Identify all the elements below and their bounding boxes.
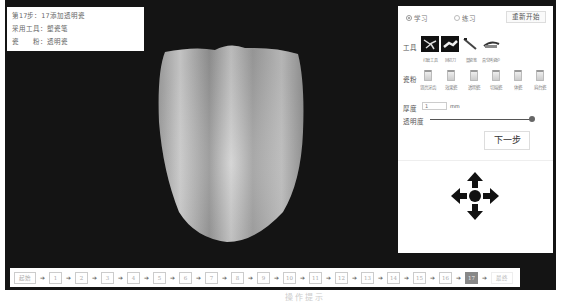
arrow-right-icon: ➔ — [140, 274, 153, 281]
radio-practice[interactable] — [454, 15, 460, 21]
porcelain-item[interactable]: 透明瓷 — [463, 70, 485, 90]
step-3[interactable]: 3 — [101, 272, 114, 284]
arrow-right-icon[interactable] — [483, 188, 499, 204]
tool-cutback[interactable]: 回切刀 — [440, 36, 460, 63]
porcelain-item[interactable]: 效果瓷 — [440, 70, 462, 90]
step-2[interactable]: 2 — [75, 272, 88, 284]
arrow-right-icon: ➔ — [426, 274, 439, 281]
control-panel: 学习 练习 重新开始 工具 打磨工具 回切刀 塑瓷笔 真空烤瓷炉 瓷粉 竖亮牙齿… — [398, 6, 553, 253]
opacity-slider-thumb[interactable] — [529, 116, 535, 122]
arrow-right-icon: ➔ — [452, 274, 465, 281]
step-12[interactable]: 12 — [335, 272, 348, 284]
step-10[interactable]: 10 — [283, 272, 296, 284]
cutback-knife-icon — [441, 36, 459, 52]
tool-info: 采用工具：塑瓷笔 — [12, 23, 139, 36]
arrow-right-icon: ➔ — [244, 274, 257, 281]
step-1[interactable]: 1 — [49, 272, 62, 284]
divider — [398, 160, 553, 161]
porcelain-brush-icon — [462, 36, 480, 52]
arrow-right-icon: ➔ — [192, 274, 205, 281]
arrow-right-icon: ➔ — [166, 274, 179, 281]
step-final[interactable]: 最终 — [491, 272, 513, 284]
restart-button[interactable]: 重新开始 — [506, 11, 546, 23]
arrow-right-icon: ➔ — [88, 274, 101, 281]
arrow-right-icon: ➔ — [270, 274, 283, 281]
porcelain-jar-icon — [447, 70, 455, 81]
arrow-down-icon[interactable] — [467, 204, 483, 220]
porcelain-label: 瓷粉 — [403, 74, 417, 84]
porcelain-item[interactable]: 肩台瓷 — [529, 70, 551, 90]
tool-porcelain-brush[interactable]: 塑瓷笔 — [461, 36, 481, 63]
arrow-right-icon: ➔ — [478, 274, 491, 281]
material-info: 瓷 粉：透明瓷 — [12, 36, 139, 49]
arrow-right-icon: ➔ — [348, 274, 361, 281]
tool-grinding[interactable]: 打磨工具 — [420, 36, 440, 63]
vacuum-furnace-icon — [482, 36, 500, 52]
tool-porcelain-brush-label: 塑瓷笔 — [462, 57, 480, 62]
tools-label: 工具 — [403, 42, 417, 52]
porcelain-item[interactable]: 体瓷 — [507, 70, 529, 90]
center-icon[interactable] — [469, 190, 481, 202]
grinding-tool-icon — [421, 36, 439, 52]
tooth-model[interactable] — [155, 42, 307, 244]
step-13[interactable]: 13 — [361, 272, 374, 284]
porcelain-item-label: 体瓷 — [507, 84, 529, 90]
step-14[interactable]: 14 — [387, 272, 400, 284]
opacity-label: 透明度 — [403, 116, 424, 126]
step-8[interactable]: 8 — [231, 272, 244, 284]
arrow-right-icon: ➔ — [218, 274, 231, 281]
arrow-up-icon[interactable] — [467, 172, 483, 188]
step-7[interactable]: 7 — [205, 272, 218, 284]
tool-grinding-label: 打磨工具 — [421, 57, 439, 62]
mode-learn-label: 学习 — [414, 13, 428, 23]
thickness-unit: mm — [450, 103, 460, 109]
arrow-right-icon: ➔ — [296, 274, 309, 281]
porcelain-jar-icon — [470, 70, 478, 81]
arrow-right-icon: ➔ — [62, 274, 75, 281]
step-progress-bar: 起始 ➔ 1 ➔ 2 ➔ 3 ➔ 4 ➔ 5 ➔ 6 ➔ 7 ➔ 8 ➔ 9 ➔… — [10, 268, 520, 287]
porcelain-item-label: 透明瓷 — [463, 84, 485, 90]
step-4[interactable]: 4 — [127, 272, 140, 284]
porcelain-item-label: 效果瓷 — [440, 84, 462, 90]
mode-learn[interactable]: 学习 — [406, 13, 428, 23]
porcelain-jar-icon — [536, 70, 544, 81]
next-step-button[interactable]: 下一步 — [484, 131, 530, 150]
step-5[interactable]: 5 — [153, 272, 166, 284]
opacity-slider[interactable] — [430, 119, 532, 120]
step-title: 第17步：17添加透明瓷 — [12, 10, 139, 23]
arrow-right-icon: ➔ — [36, 274, 49, 281]
porcelain-item-label: 肩台瓷 — [529, 84, 551, 90]
thickness-label: 厚度 — [403, 103, 417, 113]
porcelain-item-label: 竖亮牙齿 — [417, 84, 439, 90]
step-9[interactable]: 9 — [257, 272, 270, 284]
step-info-box: 第17步：17添加透明瓷 采用工具：塑瓷笔 瓷 粉：透明瓷 — [7, 7, 144, 51]
arrow-left-icon[interactable] — [451, 188, 467, 204]
mode-practice-label: 练习 — [462, 13, 476, 23]
arrow-right-icon: ➔ — [374, 274, 387, 281]
mode-practice[interactable]: 练习 — [454, 13, 476, 23]
thickness-input[interactable]: 1 — [422, 102, 447, 110]
arrow-right-icon: ➔ — [322, 274, 335, 281]
porcelain-item-label: 切端瓷 — [485, 84, 507, 90]
move-control[interactable] — [450, 171, 500, 221]
arrow-right-icon: ➔ — [114, 274, 127, 281]
step-start[interactable]: 起始 — [14, 272, 36, 284]
step-16[interactable]: 16 — [439, 272, 452, 284]
tool-vacuum-furnace[interactable]: 真空烤瓷炉 — [481, 36, 501, 63]
porcelain-item[interactable]: 切端瓷 — [485, 70, 507, 90]
step-17[interactable]: 17 — [465, 272, 478, 284]
step-15[interactable]: 15 — [413, 272, 426, 284]
porcelain-item[interactable]: 竖亮牙齿 — [417, 70, 439, 90]
step-6[interactable]: 6 — [179, 272, 192, 284]
tool-cutback-label: 回切刀 — [441, 57, 459, 62]
arrow-right-icon: ➔ — [400, 274, 413, 281]
porcelain-jar-icon — [492, 70, 500, 81]
porcelain-jar-icon — [514, 70, 522, 81]
tool-vacuum-furnace-label: 真空烤瓷炉 — [482, 57, 500, 62]
footer-caption: 操作提示 — [285, 291, 325, 302]
porcelain-jar-icon — [424, 70, 432, 81]
step-11[interactable]: 11 — [309, 272, 322, 284]
radio-learn[interactable] — [406, 15, 412, 21]
